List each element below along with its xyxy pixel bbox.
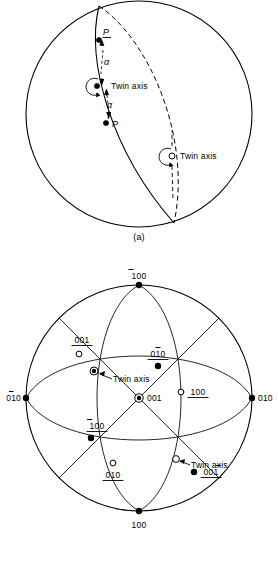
pole-001-under-marker [76,351,82,357]
pole-p-upper-marker-a [96,37,101,42]
twin-axis-lower-marker-b [173,456,180,463]
great-circle-horizontal-lower-b [26,398,252,440]
label-pole-001-center: 001 [147,393,162,403]
pole-1bar00-top-marker [136,282,142,288]
twin-axis-upper-dot-b [92,369,96,373]
label-pole-01bar0-under-text: 010 [151,349,166,359]
panel-b-svg: 100 100 010 010 001 001 [0,252,278,571]
pole-001-center-dot [137,396,141,400]
panel-a-svg: P α Twin axis α P Twin axis [0,0,278,252]
figure-container: P α Twin axis α P Twin axis (a) [0,0,278,571]
pole-01bar0-under-marker [155,363,161,369]
label-twin-axis-lower-b: Twin axis [191,460,228,470]
label-pole-1bar00-top-text: 100 [132,271,147,281]
label-pole-1bar00-top: 100 [129,270,147,282]
primitive-circle-a [26,1,252,227]
pole-01bar0-left-marker [23,395,29,401]
label-alpha-lower: α [107,100,113,110]
pole-010-right-marker [249,395,255,401]
label-p-lower: P [112,119,118,129]
pole-1bar00-under-marker [88,435,94,441]
label-pole-010-right: 010 [258,393,273,403]
great-circle-dashed-a [99,6,178,223]
label-twin-axis-right: Twin axis [180,151,217,161]
label-pole-001-under-text: 001 [75,335,90,345]
panel-a-stereogram: P α Twin axis α P Twin axis (a) [0,0,278,252]
label-pole-100-under: 100 [188,387,209,398]
label-pole-010-under-text: 010 [106,470,121,480]
label-pole-1bar00-under: 100 [87,420,108,432]
label-pole-001-under: 001 [72,335,93,346]
label-pole-010-under: 010 [103,470,124,481]
pole-p-lower-marker-a [103,120,108,125]
panel-a-labels: P α Twin axis α P Twin axis [103,27,217,161]
label-pole-100-bottom: 100 [132,520,147,530]
label-twin-axis-upper-b: Twin axis [113,374,150,384]
pole-010-under-marker [110,460,116,466]
twin-axis-upper-arrowhead-b [99,371,105,377]
twin-axis-left-marker-a [94,83,99,88]
label-pole-100-under-text: 100 [191,387,206,397]
label-pole-01bar0-under: 010 [148,348,169,360]
twin-axis-lower-arrowhead-b [179,459,185,464]
label-pole-01bar0-left-text: 010 [6,393,21,403]
label-pole-1bar00-under-text: 100 [90,421,105,431]
label-twin-axis-left: Twin axis [111,81,148,91]
label-pole-01bar0-left: 010 [6,392,21,404]
panel-b-stereogram: 100 100 010 010 001 001 [0,252,278,571]
pole-100-bottom-marker [136,508,142,514]
label-p-upper: P [103,27,109,37]
caption-panel-a: (a) [0,232,278,242]
twin-axis-right-marker-a [169,153,175,159]
pole-100-under-marker [178,389,184,395]
label-alpha-upper: α [104,57,110,67]
